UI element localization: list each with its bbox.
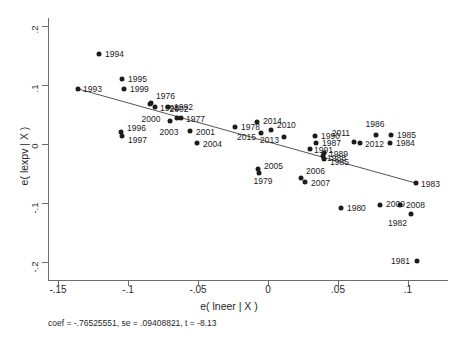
- scatter-point: [408, 211, 413, 216]
- point-label: 1982: [388, 219, 407, 228]
- point-label: 2004: [203, 140, 222, 149]
- point-label: 2012: [365, 140, 384, 149]
- coef-annotation: coef = -.76525551, se = .09408821, t = -…: [48, 318, 216, 328]
- scatter-point: [302, 180, 307, 185]
- point-label: 1983: [421, 180, 440, 189]
- scatter-point: [413, 181, 418, 186]
- scatter-point: [389, 133, 394, 138]
- scatter-point: [257, 170, 262, 175]
- scatter-point: [398, 203, 403, 208]
- scatter-point: [268, 127, 273, 132]
- point-label: 2010: [277, 120, 296, 129]
- point-label: 2006: [306, 166, 325, 175]
- point-label: 1981: [391, 257, 410, 266]
- point-label: 1994: [105, 50, 124, 59]
- scatter-point: [351, 140, 356, 145]
- scatter-point: [387, 141, 392, 146]
- scatter-point: [414, 259, 419, 264]
- point-label: 1997: [128, 136, 147, 145]
- point-label: 1984: [396, 139, 415, 148]
- scatter-point: [97, 52, 102, 57]
- scatter-point: [338, 206, 343, 211]
- scatter-point: [378, 202, 383, 207]
- scatter-point: [119, 134, 124, 139]
- scatter-point: [308, 147, 313, 152]
- added-variable-plot: .2.10-.1-.2 -.15-.1-.050.05.1 e( lexpv |…: [0, 0, 458, 341]
- scatter-point: [373, 133, 378, 138]
- point-label: 2001: [196, 127, 215, 136]
- point-label: 1980: [347, 204, 366, 213]
- scatter-point: [322, 156, 327, 161]
- scatter-point: [153, 104, 158, 109]
- point-label: 2000: [142, 115, 161, 124]
- point-label: 2005: [264, 162, 283, 171]
- point-label: 1976: [156, 92, 175, 101]
- scatter-point: [179, 116, 184, 121]
- point-label: 1979: [254, 176, 273, 185]
- scatter-point: [357, 141, 362, 146]
- point-label: 2013: [260, 136, 279, 145]
- scatter-point: [254, 120, 259, 125]
- scatter-point: [168, 118, 173, 123]
- point-label: 1985: [330, 158, 349, 167]
- point-label: 2002: [170, 104, 189, 113]
- point-label: 2011: [332, 129, 350, 138]
- scatter-point: [232, 124, 237, 129]
- point-label: 1993: [83, 84, 102, 93]
- scatter-point: [188, 128, 193, 133]
- point-label: 2015: [237, 133, 256, 142]
- point-label: 1986: [365, 120, 384, 129]
- scatter-point: [281, 134, 286, 139]
- point-label: 2007: [311, 179, 330, 188]
- point-label: 1996: [127, 124, 146, 133]
- point-label: 2008: [406, 201, 425, 210]
- scatter-points-layer: 1993199419951999199619971976199820001992…: [0, 0, 458, 341]
- point-label: 2003: [160, 128, 179, 137]
- point-label: 1995: [128, 74, 147, 83]
- scatter-point: [121, 86, 126, 91]
- point-label: 1999: [130, 84, 149, 93]
- scatter-point: [76, 86, 81, 91]
- scatter-point: [147, 101, 152, 106]
- scatter-point: [195, 140, 200, 145]
- scatter-point: [313, 134, 318, 139]
- point-label: 1977: [186, 115, 205, 124]
- scatter-point: [119, 76, 124, 81]
